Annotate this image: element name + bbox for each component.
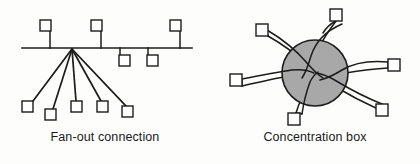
fanout-leaf-box-4 (97, 101, 108, 112)
panel-fanout-connection: Fan-out connection (0, 0, 210, 164)
panel-concentration-box: Concentration box (210, 0, 420, 164)
fanout-bundle (33, 49, 126, 109)
caption-fanout-connection: Fan-out connection (0, 130, 210, 144)
tap-2-node-box (91, 20, 102, 31)
fanout-diagram (0, 0, 210, 128)
tap-3-node-box (170, 20, 181, 31)
concentration-node-box-upper-left (256, 24, 268, 36)
bus-tap-5 (147, 48, 158, 66)
bus-tap-3 (170, 20, 181, 48)
bus-tap-2 (91, 20, 102, 48)
caption-concentration-box: Concentration box (210, 130, 420, 144)
fanout-leaf-box-1 (22, 101, 33, 112)
concentration-node-box-left (230, 74, 242, 86)
figure-root: Fan-out connection (0, 0, 420, 164)
tap-4-node-box (119, 55, 130, 66)
fanout-leaf-box-5 (122, 106, 133, 117)
concentration-node-box-right (388, 59, 400, 71)
concentration-node-box-top-right (330, 9, 342, 21)
fanout-leaf-box-3 (71, 101, 82, 112)
concentration-node-box-lower-right (376, 104, 388, 116)
fanout-line-1 (33, 49, 72, 101)
tap-5-node-box (147, 55, 158, 66)
bus-tap-1 (40, 20, 51, 48)
bus-tap-4 (119, 48, 130, 66)
fanout-leaf-box-2 (45, 109, 56, 120)
fanout-line-2 (53, 49, 72, 109)
tap-1-node-box (40, 20, 51, 31)
concentration-node-box-bottom (288, 113, 300, 125)
concentration-diagram (210, 0, 420, 128)
